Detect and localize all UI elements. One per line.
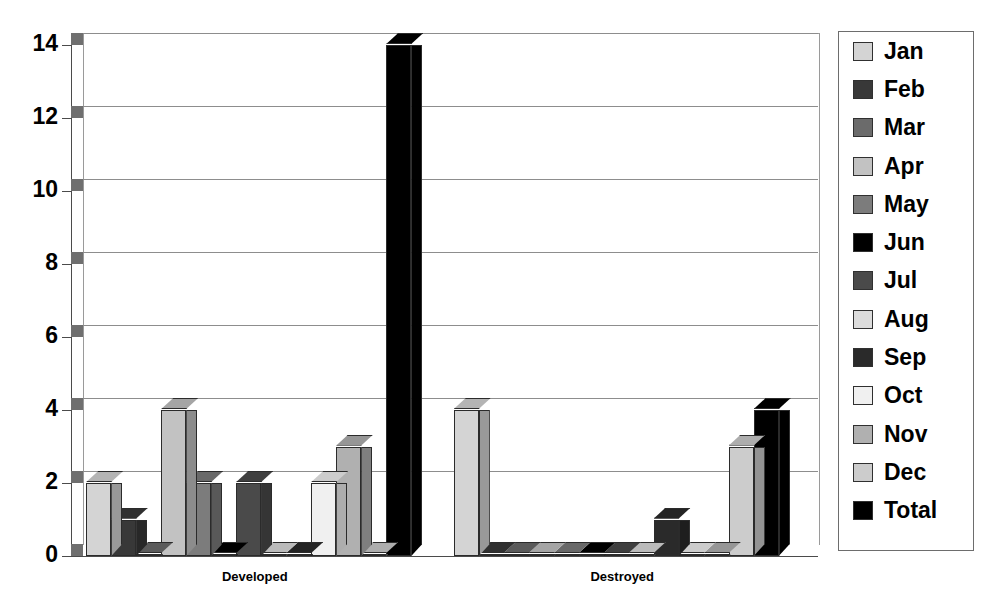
y-axis-tick-label: 6 bbox=[0, 324, 58, 347]
legend-item-jul[interactable]: Jul bbox=[839, 262, 973, 300]
bar bbox=[161, 398, 198, 556]
legend-item-mar[interactable]: Mar bbox=[839, 109, 973, 147]
bar-side-face bbox=[504, 554, 515, 556]
bar-side-face bbox=[579, 554, 590, 556]
bar-side-face bbox=[311, 554, 322, 556]
y-axis-tick-label: 0 bbox=[0, 543, 58, 566]
bar-side-face bbox=[161, 554, 172, 556]
bar-side-face bbox=[411, 45, 422, 556]
x-axis-line bbox=[71, 556, 818, 557]
legend-label: Sep bbox=[884, 346, 926, 369]
legend-label: Nov bbox=[884, 423, 927, 446]
legend-label: Aug bbox=[884, 308, 929, 331]
legend-item-feb[interactable]: Feb bbox=[839, 70, 973, 108]
legend-item-jan[interactable]: Jan bbox=[839, 32, 973, 70]
y-axis-tick-label-text: 0 bbox=[0, 543, 58, 566]
bar-side-face bbox=[261, 483, 272, 556]
legend-label: Mar bbox=[884, 116, 925, 139]
bar-top-face bbox=[386, 33, 423, 44]
bar-side-face bbox=[629, 554, 640, 556]
gridline-depth-lead bbox=[71, 106, 83, 118]
bar-side-face bbox=[554, 554, 565, 556]
legend-label: May bbox=[884, 193, 929, 216]
bar bbox=[454, 398, 491, 556]
legend-swatch-oct bbox=[853, 386, 873, 405]
y-axis-tick-label: 10 bbox=[0, 178, 58, 201]
y-axis-tick bbox=[62, 118, 72, 119]
gridline-depth-lead bbox=[71, 33, 83, 45]
legend-item-sep[interactable]: Sep bbox=[839, 338, 973, 376]
bar-front-face bbox=[161, 410, 186, 556]
gridline-depth-lead bbox=[71, 544, 83, 556]
gridline-depth-lead bbox=[71, 471, 83, 483]
gridline-depth-lead bbox=[71, 398, 83, 410]
bar-side-face bbox=[336, 483, 347, 556]
legend-swatch-jul bbox=[853, 271, 873, 290]
legend-swatch-dec bbox=[853, 463, 873, 482]
bar-side-face bbox=[754, 447, 765, 557]
bar-top-face bbox=[161, 398, 198, 409]
legend-item-jun[interactable]: Jun bbox=[839, 223, 973, 261]
bar-top-face bbox=[236, 471, 273, 482]
legend-item-may[interactable]: May bbox=[839, 185, 973, 223]
gridline-depth-lead bbox=[71, 252, 83, 264]
bar-side-face bbox=[361, 447, 372, 557]
legend-label: Apr bbox=[884, 155, 924, 178]
y-axis-tick-label-text: 6 bbox=[0, 324, 58, 347]
y-axis-tick-label: 2 bbox=[0, 470, 58, 493]
bar-side-face bbox=[386, 554, 397, 556]
bar-side-face bbox=[186, 410, 197, 556]
chart-screenshot: 02468101214 DevelopedDestroyed JanFebMar… bbox=[0, 0, 983, 602]
gridline-depth-lead bbox=[71, 325, 83, 337]
bar bbox=[386, 33, 423, 556]
legend-item-apr[interactable]: Apr bbox=[839, 147, 973, 185]
bar-top-face bbox=[454, 398, 491, 409]
y-axis-tick bbox=[62, 410, 72, 411]
bar-side-face bbox=[604, 554, 615, 556]
y-axis-tick-label-text: 4 bbox=[0, 397, 58, 420]
y-axis-tick bbox=[62, 483, 72, 484]
y-axis-tick bbox=[62, 337, 72, 338]
bar-side-face bbox=[654, 554, 665, 556]
y-axis-tick bbox=[62, 556, 72, 557]
gridline-depth-lead bbox=[71, 179, 83, 191]
bar-side-face bbox=[286, 554, 297, 556]
y-axis-tick-label: 4 bbox=[0, 397, 58, 420]
y-axis-tick-label-text: 14 bbox=[0, 32, 58, 55]
bar-side-face bbox=[704, 554, 715, 556]
y-axis-tick-label-text: 2 bbox=[0, 470, 58, 493]
bar bbox=[729, 435, 766, 557]
legend-item-aug[interactable]: Aug bbox=[839, 300, 973, 338]
bar-front-face bbox=[386, 45, 411, 556]
legend-item-nov[interactable]: Nov bbox=[839, 415, 973, 453]
legend-swatch-apr bbox=[853, 157, 873, 176]
y-axis-tick bbox=[62, 264, 72, 265]
y-axis-tick-label-text: 12 bbox=[0, 105, 58, 128]
bar-side-face bbox=[779, 410, 790, 556]
plot-area: 02468101214 DevelopedDestroyed bbox=[0, 0, 826, 602]
legend-item-oct[interactable]: Oct bbox=[839, 377, 973, 415]
bar-top-face bbox=[754, 398, 791, 409]
bar-side-face bbox=[136, 520, 147, 557]
legend-swatch-feb bbox=[853, 80, 873, 99]
bar-top-face bbox=[654, 508, 691, 519]
legend-swatch-nov bbox=[853, 425, 873, 444]
gridline bbox=[83, 106, 818, 107]
gridline bbox=[83, 252, 818, 253]
legend-item-dec[interactable]: Dec bbox=[839, 453, 973, 491]
category-label-destroyed: Destroyed bbox=[439, 569, 807, 584]
gridline bbox=[83, 325, 818, 326]
y-axis-tick bbox=[62, 191, 72, 192]
y-axis-tick-label-text: 10 bbox=[0, 178, 58, 201]
legend-item-total[interactable]: Total bbox=[839, 492, 973, 530]
legend-label: Jul bbox=[884, 269, 917, 292]
bar-front-face bbox=[86, 483, 111, 556]
bar-front-face bbox=[729, 447, 754, 557]
legend: JanFebMarAprMayJunJulAugSepOctNovDecTota… bbox=[838, 31, 974, 551]
y-axis-tick-label-text: 8 bbox=[0, 251, 58, 274]
bar-top-face bbox=[336, 435, 373, 446]
legend-swatch-mar bbox=[853, 118, 873, 137]
gridline bbox=[83, 179, 818, 180]
legend-swatch-aug bbox=[853, 310, 873, 329]
bar-front-face bbox=[454, 410, 479, 556]
